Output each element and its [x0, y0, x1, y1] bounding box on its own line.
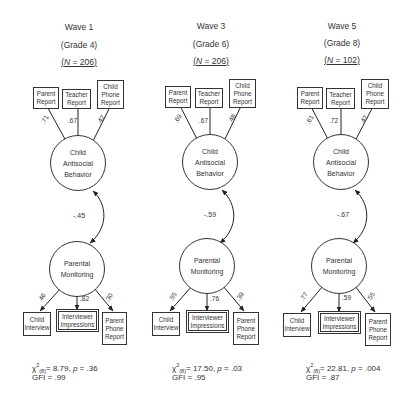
- grade-label: (Grade 4): [10, 40, 148, 50]
- parent-report-box: Parent Report: [297, 87, 323, 109]
- child-interview-box: Child Interview: [283, 313, 311, 337]
- sample-size: (N = 206): [142, 56, 280, 66]
- child-interview-box: Child Interview: [152, 312, 180, 336]
- wave-1-panel: Wave 1 (Grade 4) (N = 206) Parent Report…: [10, 0, 148, 401]
- wave-title: Wave 1: [10, 22, 148, 32]
- child-interview-box: Child Interview: [23, 312, 51, 336]
- parent-report-box: Parent Report: [33, 87, 59, 109]
- parent-phone-report-box: Parent Phone Report: [365, 313, 391, 346]
- wave-title: Wave 3: [142, 21, 280, 31]
- child-antisocial-behavior-latent: ChildAntisocialBehavior: [50, 135, 106, 191]
- teacher-report-box: Teacher Report: [195, 88, 223, 108]
- teacher-report-box: Teacher Report: [62, 89, 91, 109]
- loading-teacher-report: .67: [199, 117, 208, 124]
- loading-interviewer-impressions: .82: [80, 295, 89, 302]
- correlation-label: -.45: [73, 212, 85, 219]
- child-antisocial-behavior-latent: ChildAntisocialBehavior: [313, 134, 369, 190]
- correlation-label: -.67: [337, 211, 349, 218]
- parent-phone-report-box: Parent Phone Report: [233, 312, 259, 345]
- child-phone-report-box: Child Phone Report: [229, 79, 256, 108]
- parental-monitoring-latent: ParentalMonitoring: [179, 238, 235, 294]
- child-antisocial-behavior-latent: ChildAntisocialBehavior: [182, 134, 238, 190]
- parental-monitoring-latent: ParentalMonitoring: [311, 238, 367, 294]
- wave-title: Wave 5: [273, 21, 411, 31]
- correlation-label: -.59: [204, 211, 216, 218]
- parent-phone-report-box: Parent Phone Report: [102, 312, 127, 345]
- teacher-report-box: Teacher Report: [326, 88, 355, 109]
- interviewer-impressions-box: Interviewer Impressions: [320, 313, 359, 332]
- grade-label: (Grade 6): [142, 39, 280, 49]
- loading-interviewer-impressions: .76: [210, 295, 219, 302]
- gfi-statistic: GFI = .87: [306, 372, 340, 384]
- interviewer-impressions-box: Interviewer Impressions: [188, 312, 227, 331]
- loading-teacher-report: .67: [68, 117, 77, 124]
- loading-interviewer-impressions: .59: [342, 294, 351, 301]
- grade-label: (Grade 8): [273, 38, 411, 48]
- wave-5-panel: Wave 5 (Grade 8) (N = 102) Parent Report…: [273, 0, 411, 401]
- interviewer-impressions-box: Interviewer Impressions: [58, 311, 97, 330]
- gfi-statistic: GFI = .99: [32, 372, 66, 384]
- child-phone-report-box: Child Phone Report: [361, 79, 389, 109]
- child-phone-report-box: Child Phone Report: [97, 80, 124, 109]
- parental-monitoring-latent: ParentalMonitoring: [49, 241, 105, 297]
- loading-teacher-report: .72: [329, 117, 338, 124]
- sample-size: (N = 206): [10, 57, 148, 67]
- sample-size: (N = 102): [273, 55, 411, 65]
- wave-3-panel: Wave 3 (Grade 6) (N = 206) Parent Report…: [142, 0, 280, 401]
- parent-report-box: Parent Report: [165, 86, 191, 108]
- gfi-statistic: GFI = .95: [172, 372, 206, 384]
